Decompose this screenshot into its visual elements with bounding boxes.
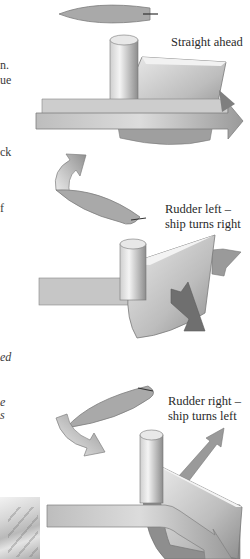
ship-hull-icon	[66, 386, 154, 428]
panel-straight-ahead	[36, 5, 243, 144]
ship-hull-icon	[56, 190, 140, 224]
panel-rudder-left	[39, 154, 241, 338]
flow-arrow-icon	[212, 249, 241, 276]
rudder-diagram	[0, 0, 250, 559]
panel-label-rudder-right: Rudder right – ship turns left	[168, 394, 241, 424]
label-line: Rudder left –	[165, 202, 241, 217]
panel-label-rudder-left: Rudder left – ship turns right	[165, 202, 241, 232]
label-line: ship turns left	[168, 409, 241, 424]
label-line: ship turns right	[165, 217, 241, 232]
ship-hull-icon	[59, 5, 150, 23]
panel-label-straight-ahead: Straight ahead	[171, 35, 243, 50]
label-line: Rudder right –	[168, 394, 241, 409]
flow-arrow-icon	[178, 428, 224, 482]
label-line: Straight ahead	[171, 35, 243, 49]
